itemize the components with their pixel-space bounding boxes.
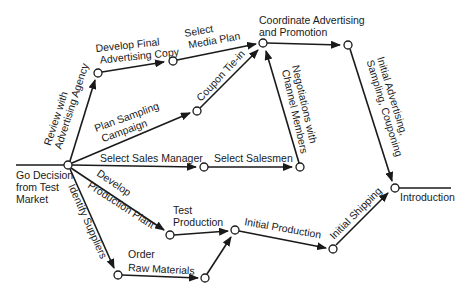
node-introduction — [391, 184, 399, 192]
node-sales-manager — [200, 163, 208, 171]
label-go-decision-1: Go Decision — [16, 169, 73, 181]
node-suppliers-identified — [114, 271, 122, 279]
edge-sales-manager — [72, 165, 196, 167]
node-production-done — [329, 245, 337, 253]
label-order-raw-1: Order — [128, 248, 155, 260]
node-production-start — [231, 226, 239, 234]
label-go-decision-2: from Test — [16, 181, 59, 193]
label-salesmen: Select Salesmen — [214, 152, 293, 164]
label-test-production-1: Test — [173, 204, 192, 216]
edge-coordinate — [267, 43, 340, 45]
node-go-decision — [64, 161, 72, 169]
node-plant-developed — [166, 231, 174, 239]
label-initial-production: Initial Production — [244, 215, 323, 240]
label-test-production-2: Production — [173, 216, 223, 228]
label-initial-shipping: Initial Shipping — [327, 185, 384, 242]
label-coordinate-2: and Promotion — [259, 26, 327, 38]
node-agency-reviewed — [94, 69, 102, 77]
node-coordinated — [344, 41, 352, 49]
edge-test-production — [174, 231, 228, 235]
node-sampling-planned — [193, 107, 201, 115]
node-coordinate — [259, 39, 267, 47]
label-order-raw-2: Raw Materials — [128, 261, 195, 276]
label-introduction: Introduction — [400, 191, 455, 203]
node-salesmen — [296, 163, 304, 171]
activity-network-diagram: Go Decision from Test Market Review with… — [0, 0, 466, 297]
node-materials-ordered — [201, 274, 209, 282]
edge-raw-to-production — [207, 237, 231, 274]
label-go-decision-3: Market — [16, 193, 48, 205]
label-sales-manager: Select Sales Manager — [100, 152, 203, 164]
label-coordinate-1: Coordinate Advertising — [259, 14, 365, 26]
